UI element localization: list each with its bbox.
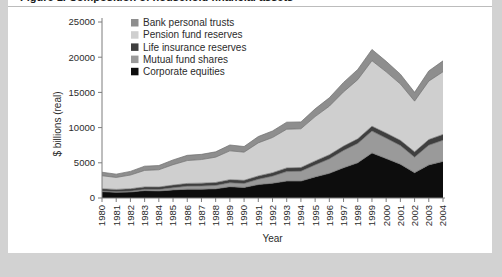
clipped-header-text: Figure 1. Composition of household finan…	[20, 0, 293, 3]
legend-label-mutual-fund-shares: Mutual fund shares	[143, 54, 228, 65]
legend-label-pension-fund-reserves: Pension fund reserves	[143, 29, 243, 40]
x-axis-title: Year	[262, 233, 283, 244]
legend-swatch-mutual-fund-shares	[131, 56, 139, 64]
y-tick-label: 15000	[69, 87, 95, 98]
y-axis-title: $ billions (real)	[52, 91, 63, 156]
x-axis-group: 1980198119821983198419851986198719881989…	[96, 198, 448, 226]
legend-label-corporate-equities: Corporate equities	[143, 66, 225, 77]
x-tick-label: 1987	[196, 205, 207, 226]
x-tick-label: 1985	[167, 205, 178, 226]
y-tick-label: 10000	[69, 122, 95, 133]
x-tick-label: 1983	[139, 205, 150, 226]
x-tick-label: 2003	[423, 205, 434, 226]
y-tick-label: 0	[90, 192, 95, 203]
legend-label-life-insurance-reserves: Life insurance reserves	[143, 42, 246, 53]
x-tick-label: 1994	[295, 205, 306, 226]
y-tick-label: 20000	[69, 52, 95, 63]
x-tick-label: 1984	[153, 205, 164, 226]
x-tick-label: 1992	[267, 205, 278, 226]
legend-swatch-corporate-equities	[131, 68, 139, 76]
x-tick-label: 1991	[253, 205, 264, 226]
x-tick-label: 1982	[125, 205, 136, 226]
legend-group: Bank personal trustsPension fund reserve…	[131, 17, 246, 77]
y-axis-group: 0500010000150002000025000	[69, 16, 102, 203]
x-tick-label: 1998	[352, 205, 363, 226]
legend-swatch-bank-personal-trusts	[131, 19, 139, 27]
x-tick-label: 1981	[111, 205, 122, 226]
x-tick-label: 1989	[224, 205, 235, 226]
x-tick-label: 2000	[381, 205, 392, 226]
stacked-area-chart: 0500010000150002000025000 19801981198219…	[0, 7, 502, 253]
x-tick-label: 1986	[182, 205, 193, 226]
chart-svg: 0500010000150002000025000 19801981198219…	[0, 7, 502, 253]
x-tick-label: 1988	[210, 205, 221, 226]
y-tick-label: 25000	[69, 16, 95, 27]
x-tick-label: 1980	[96, 205, 107, 226]
x-tick-label: 2004	[437, 205, 448, 226]
legend-label-bank-personal-trusts: Bank personal trusts	[143, 17, 234, 28]
legend-swatch-pension-fund-reserves	[131, 31, 139, 39]
x-tick-label: 1999	[366, 205, 377, 226]
x-tick-label: 2002	[409, 205, 420, 226]
y-tick-label: 5000	[74, 157, 95, 168]
x-tick-label: 1993	[281, 205, 292, 226]
x-tick-label: 1997	[338, 205, 349, 226]
x-tick-label: 1996	[324, 205, 335, 226]
x-tick-label: 2001	[395, 205, 406, 226]
x-tick-label: 1995	[310, 205, 321, 226]
page-root: Figure 1. Composition of household finan…	[0, 0, 502, 277]
x-tick-label: 1990	[238, 205, 249, 226]
legend-swatch-life-insurance-reserves	[131, 43, 139, 51]
